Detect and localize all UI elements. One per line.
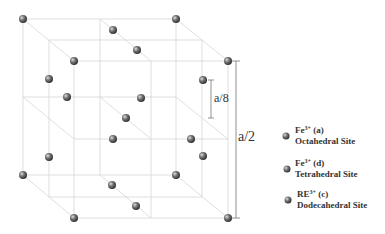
dimension-arrows: [208, 61, 240, 218]
legend-item-octahedral: Fe3+ (a) Octahedral Site: [295, 125, 355, 147]
label-a-over-8: a/8: [214, 91, 229, 106]
label-a-over-2: a/2: [238, 129, 255, 145]
legend-item-tetrahedral: Fe3+ (d) Tetrahedral Site: [295, 158, 357, 180]
legend-sphere-dodecahedral: [285, 197, 292, 204]
legend-sphere-octahedral: [283, 133, 290, 140]
atom-spheres: [19, 15, 232, 222]
legend-item-dodecahedral: RE3+ (c) Dodecahedral Site: [297, 189, 367, 211]
legend-sphere-tetrahedral: [284, 166, 291, 173]
